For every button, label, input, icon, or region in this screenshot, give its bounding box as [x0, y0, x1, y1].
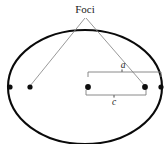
right-vertex-point [158, 84, 163, 89]
center-point [85, 84, 91, 90]
leader-line-right-focus [86, 18, 145, 86]
left-focus-point [27, 84, 32, 89]
ellipse-foci-diagram: Foci a c [0, 0, 168, 144]
semi-major-axis-label: a [121, 60, 126, 70]
foci-label: Foci [75, 3, 95, 15]
focal-distance-label: c [112, 97, 117, 107]
figure-canvas: Foci a c [0, 0, 168, 144]
semi-major-axis-brace [88, 70, 161, 78]
right-focus-point [142, 84, 148, 90]
left-vertex-point [7, 84, 12, 89]
leader-line-left-focus [30, 18, 85, 86]
